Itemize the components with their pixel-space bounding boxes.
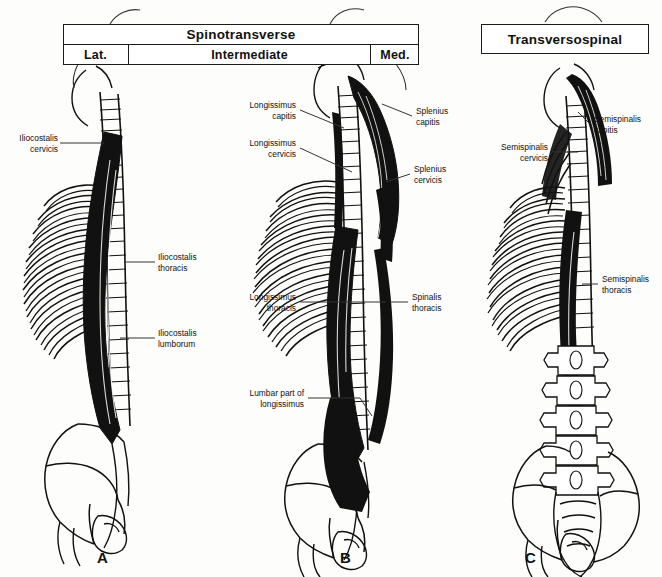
header-cell-med: Med. xyxy=(371,45,419,65)
panel-b-art xyxy=(253,54,399,577)
label-lumbar-part-of-longissimus: Lumbar part of longissimus xyxy=(212,388,304,409)
panel-c-art xyxy=(487,64,639,577)
anatomy-figure: Spinotransverse Lat. Intermediate Med. T… xyxy=(0,0,662,577)
header-cell-lat: Lat. xyxy=(63,45,128,65)
panel-letter-a: A xyxy=(97,549,108,566)
label-semispinalis-cervicis: Semispinalis cervicis xyxy=(478,142,548,163)
header-cell-intermediate: Intermediate xyxy=(129,45,370,65)
label-semispinalis-thoracis: Semispinalis thoracis xyxy=(602,274,662,295)
label-longissimus-capitis: Longissimus capitis xyxy=(228,100,296,121)
header-title-transversospinal: Transversospinal xyxy=(481,24,649,54)
label-longissimus-thoracis: Longissimus thoracis xyxy=(228,292,296,313)
label-iliocostalis-cervicis: Iliocostalis cervicis xyxy=(2,133,58,154)
figure-caption xyxy=(30,566,630,576)
label-splenius-cervicis: Splenius cervicis xyxy=(414,164,474,185)
label-longissimus-cervicis: Longissimus cervicis xyxy=(228,138,296,159)
anatomy-artwork xyxy=(0,0,662,577)
label-splenius-capitis: Splenius capitis xyxy=(416,106,476,127)
label-iliocostalis-lumborum: Iliocostalis lumborum xyxy=(158,328,220,349)
label-semispinalis-capitis: Semispinalis capitis xyxy=(594,114,660,135)
label-iliocostalis-thoracis: Iliocostalis thoracis xyxy=(158,252,218,273)
header-title-spinotransverse: Spinotransverse xyxy=(63,24,419,44)
panel-letter-b: B xyxy=(340,549,351,566)
label-spinalis-thoracis: Spinalis thoracis xyxy=(412,292,468,313)
panel-letter-c: C xyxy=(525,549,536,566)
